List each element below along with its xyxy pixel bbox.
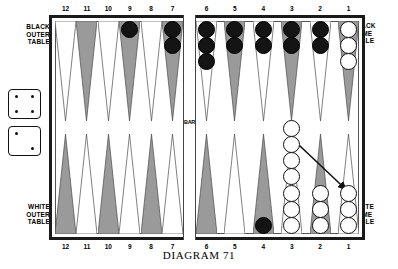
point-triangle (162, 134, 183, 234)
point-number-4: 4 (256, 5, 270, 12)
point-number-7: 7 (166, 5, 180, 12)
point-triangle (98, 21, 119, 121)
bar-label: BAR (183, 119, 196, 125)
point-triangle (76, 134, 97, 234)
point-triangle (55, 21, 76, 121)
point-number-10: 10 (101, 5, 115, 12)
point-triangle (76, 21, 97, 121)
point-10[interactable] (98, 21, 119, 121)
point-4[interactable] (253, 21, 274, 121)
checker-black[interactable] (312, 37, 329, 54)
checker-white[interactable] (312, 217, 329, 234)
point-12[interactable] (55, 21, 76, 121)
point-10[interactable] (98, 134, 119, 234)
point-8[interactable] (141, 134, 162, 234)
point-number-12: 12 (59, 5, 73, 12)
point-7[interactable] (162, 21, 183, 121)
checker-white[interactable] (340, 185, 357, 202)
point-9[interactable] (119, 134, 140, 234)
quadrant-white-home (196, 134, 359, 234)
point-number-3: 3 (285, 5, 299, 12)
point-2[interactable] (310, 134, 331, 234)
checker-black[interactable] (164, 21, 181, 38)
checker-black[interactable] (255, 37, 272, 54)
point-7[interactable] (162, 134, 183, 234)
point-6[interactable] (196, 134, 217, 234)
die-top (8, 89, 41, 119)
die-pip (31, 110, 34, 113)
point-number-1: 1 (342, 5, 356, 12)
checker-white[interactable] (283, 201, 300, 218)
black-outer-table-label: BLACK OUTER TABLE (6, 23, 50, 46)
die-pip (15, 95, 18, 98)
point-5[interactable] (224, 134, 245, 234)
die-pip (31, 95, 34, 98)
point-9[interactable] (119, 21, 140, 121)
point-triangle (196, 134, 217, 234)
die-bottom (8, 126, 41, 156)
point-2[interactable] (310, 21, 331, 121)
bar (183, 15, 196, 240)
die-pip (31, 147, 34, 150)
quadrant-black-outer (55, 21, 183, 121)
checker-white[interactable] (312, 201, 329, 218)
point-12[interactable] (55, 134, 76, 234)
checker-white[interactable] (340, 21, 357, 38)
checker-black[interactable] (198, 21, 215, 38)
point-number-5: 5 (228, 5, 242, 12)
checker-white[interactable] (283, 185, 300, 202)
point-3[interactable] (281, 134, 302, 234)
checker-white[interactable] (340, 201, 357, 218)
point-1[interactable] (338, 21, 359, 121)
checker-black[interactable] (255, 217, 272, 234)
point-3[interactable] (281, 21, 302, 121)
point-8[interactable] (141, 21, 162, 121)
point-1[interactable] (338, 134, 359, 234)
checker-white[interactable] (283, 120, 300, 137)
checker-black[interactable] (312, 21, 329, 38)
point-number-9: 9 (123, 5, 137, 12)
quadrant-black-home (196, 21, 359, 121)
point-11[interactable] (76, 134, 97, 234)
point-triangle (119, 134, 140, 234)
checker-white[interactable] (340, 217, 357, 234)
checker-black[interactable] (255, 21, 272, 38)
point-11[interactable] (76, 21, 97, 121)
quadrant-white-outer (55, 134, 183, 234)
point-number-11: 11 (80, 5, 94, 12)
point-6[interactable] (196, 21, 217, 121)
backgammon-diagram: BLACK OUTER TABLE WHITE OUTER TABLE BLAC… (0, 0, 398, 269)
point-triangle (141, 21, 162, 121)
point-number-8: 8 (144, 5, 158, 12)
point-triangle (141, 134, 162, 234)
die-pip (15, 132, 18, 135)
point-triangle (55, 134, 76, 234)
white-outer-table-label: WHITE OUTER TABLE (6, 203, 50, 226)
point-5[interactable] (224, 21, 245, 121)
point-triangle (98, 134, 119, 234)
point-number-6: 6 (200, 5, 214, 12)
checker-white[interactable] (312, 185, 329, 202)
caption: DIAGRAM 71 (0, 249, 398, 261)
point-number-2: 2 (313, 5, 327, 12)
die-pip (15, 110, 18, 113)
point-4[interactable] (253, 134, 274, 234)
point-triangle (224, 134, 245, 234)
